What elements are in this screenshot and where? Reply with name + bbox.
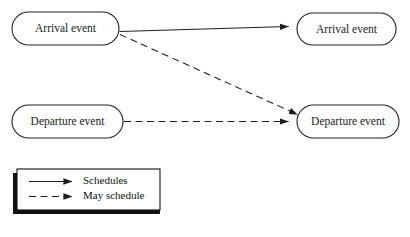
node-arrival-target[interactable]: Arrival event <box>297 13 396 45</box>
node-arrival-source-label: Arrival event <box>35 22 97 34</box>
edges-layer <box>120 27 298 122</box>
nodes-layer: Arrival event Arrival event Departure ev… <box>12 12 399 138</box>
node-departure-target[interactable]: Departure event <box>297 105 399 138</box>
edge-arrival-schedules-arrival[interactable] <box>120 27 289 32</box>
legend-item-dashed-label: May schedule <box>83 189 145 201</box>
diagram-canvas: Arrival event Arrival event Departure ev… <box>0 0 410 237</box>
legend[interactable]: Schedules May schedule <box>13 169 160 214</box>
node-arrival-source[interactable]: Arrival event <box>12 12 119 45</box>
node-departure-source[interactable]: Departure event <box>12 105 123 138</box>
diagram-svg: Arrival event Arrival event Departure ev… <box>0 0 410 237</box>
legend-item-solid-label: Schedules <box>83 174 128 186</box>
node-departure-source-label: Departure event <box>31 115 106 128</box>
edge-arrival-may-schedule-departure[interactable] <box>120 35 298 115</box>
node-departure-target-label: Departure event <box>311 115 386 128</box>
node-arrival-target-label: Arrival event <box>316 23 378 35</box>
